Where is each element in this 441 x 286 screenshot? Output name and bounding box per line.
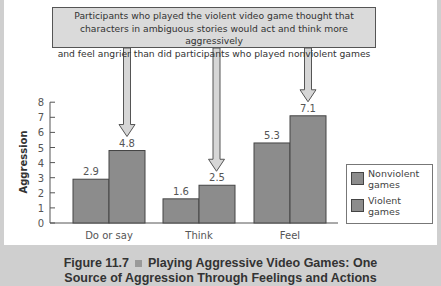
bar-value-label: 4.8 bbox=[119, 138, 135, 149]
bar-violent-do-or-say bbox=[109, 151, 145, 223]
down-arrow-icon bbox=[209, 48, 225, 171]
y-tick-label: 7 bbox=[38, 112, 44, 123]
callout-line-1: Participants who played the violent vide… bbox=[53, 10, 375, 23]
bar-nonviolent-do-or-say bbox=[73, 179, 109, 223]
bar-value-label: 5.3 bbox=[264, 130, 280, 141]
square-bullet-icon bbox=[135, 260, 142, 267]
figure-caption: Figure 11.7Playing Aggressive Video Game… bbox=[0, 256, 441, 286]
y-tick-label: 8 bbox=[38, 97, 44, 108]
figure-number: Figure 11.7 bbox=[64, 256, 129, 270]
legend-label-line1: Nonviolent bbox=[368, 168, 424, 179]
y-axis-label: Aggression bbox=[18, 130, 29, 193]
bar-violent-feel bbox=[290, 116, 326, 223]
x-tick-label: Feel bbox=[280, 230, 300, 241]
legend-item-violent: Violent games bbox=[351, 195, 424, 217]
chart-legend: Nonviolent games Violent games bbox=[346, 164, 433, 224]
figure-title-line2: Source of Aggression Through Feelings an… bbox=[0, 271, 441, 286]
y-tick-label: 0 bbox=[38, 218, 44, 229]
y-tick-label: 1 bbox=[38, 203, 44, 214]
callout-line-2: characters in ambiguous stories would ac… bbox=[53, 23, 375, 48]
y-tick-label: 6 bbox=[38, 127, 44, 138]
legend-label-line2: games bbox=[368, 206, 424, 217]
callout-annotation: Participants who played the violent vide… bbox=[52, 7, 376, 48]
down-arrow-icon bbox=[119, 48, 135, 137]
y-tick-label: 4 bbox=[38, 158, 44, 169]
callout-line-3: and feel angrier than did participants w… bbox=[53, 48, 375, 61]
bars: 2.94.8Do or say1.62.5Think5.37.1Feel bbox=[73, 103, 326, 241]
bar-violent-think bbox=[199, 185, 235, 223]
y-tick-label: 5 bbox=[38, 143, 44, 154]
bar-nonviolent-feel bbox=[254, 143, 290, 223]
x-tick-label: Do or say bbox=[85, 230, 133, 241]
y-tick-label: 3 bbox=[38, 173, 44, 184]
legend-swatch-nonviolent bbox=[351, 172, 364, 185]
bar-value-label: 2.9 bbox=[83, 166, 99, 177]
bar-value-label: 7.1 bbox=[300, 103, 316, 114]
legend-label-line1: Violent bbox=[368, 195, 424, 206]
legend-swatch-violent bbox=[351, 199, 364, 212]
bar-nonviolent-think bbox=[163, 199, 199, 223]
figure-title-line1: Playing Aggressive Video Games: One bbox=[148, 256, 377, 270]
legend-item-nonviolent: Nonviolent games bbox=[351, 168, 424, 190]
bar-value-label: 1.6 bbox=[173, 186, 189, 197]
bar-value-label: 2.5 bbox=[209, 172, 225, 183]
x-tick-label: Think bbox=[184, 230, 213, 241]
legend-label-line2: games bbox=[368, 179, 424, 190]
y-tick-label: 2 bbox=[38, 188, 44, 199]
